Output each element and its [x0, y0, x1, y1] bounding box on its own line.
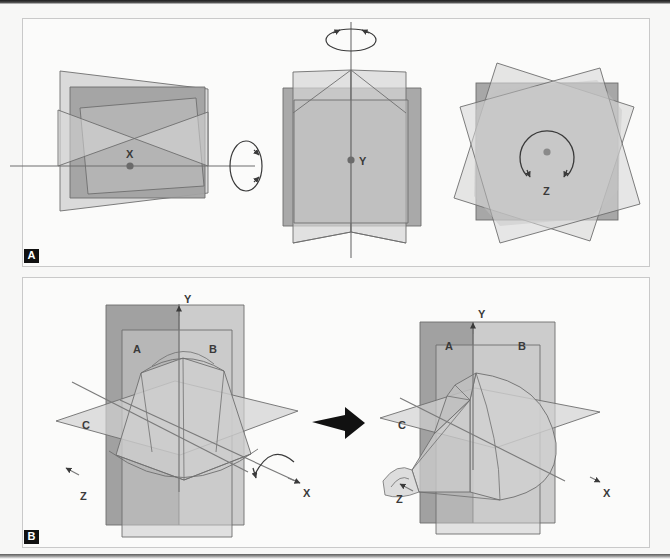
panel-a: [22, 18, 650, 267]
top-rule: [0, 0, 670, 4]
panel-b-label: B: [24, 530, 39, 544]
panel-a-label: A: [24, 249, 39, 263]
figure-root: A B X: [0, 0, 670, 559]
bottom-rule: [0, 554, 670, 559]
panel-b: [22, 277, 650, 548]
